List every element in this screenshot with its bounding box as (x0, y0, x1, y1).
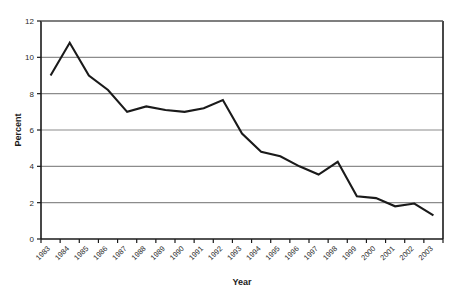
y-axis-tick-label: 0 (30, 235, 35, 244)
chart-title (0, 0, 457, 1)
y-axis-label: Percent (13, 113, 23, 146)
x-axis-label: Year (232, 277, 252, 287)
y-axis-tick-label: 4 (30, 162, 35, 171)
chart-canvas: 024681012 198319841985198619871988198919… (0, 0, 457, 295)
y-axis-tick-label: 8 (30, 90, 35, 99)
y-axis-tick-label: 6 (30, 126, 35, 135)
y-axis-tick-label: 2 (30, 199, 35, 208)
y-axis-tick-label: 10 (25, 53, 34, 62)
y-axis-tick-label: 12 (25, 17, 34, 26)
line-chart: 024681012 198319841985198619871988198919… (0, 0, 457, 295)
